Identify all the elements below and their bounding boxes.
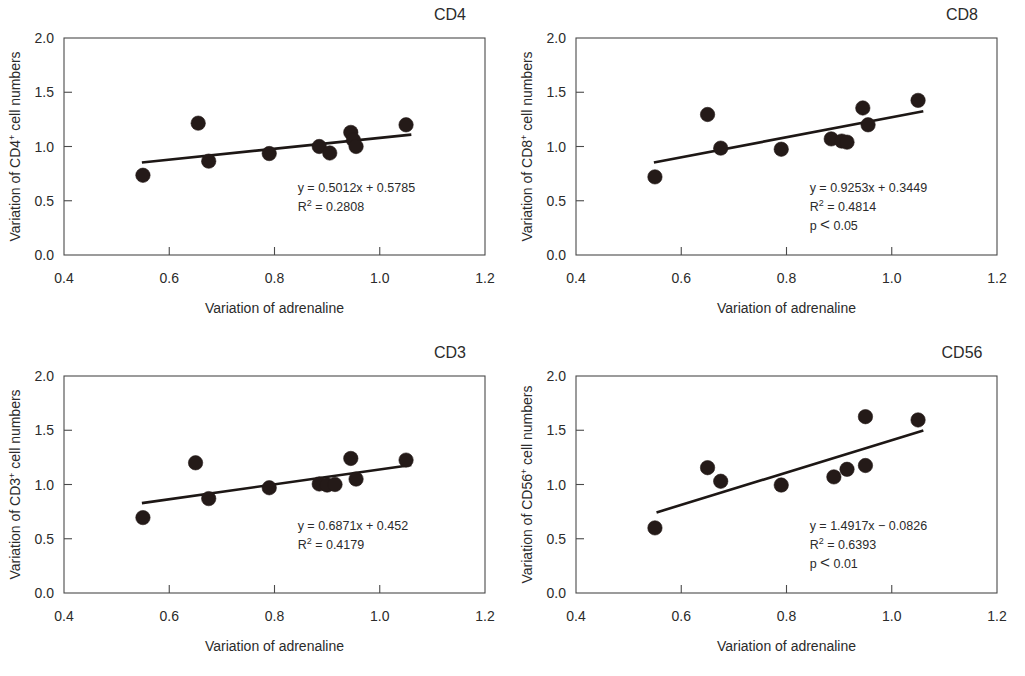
y-tick-label: 1.5 bbox=[547, 422, 567, 438]
y-tick-label: 0.5 bbox=[547, 193, 567, 209]
panel-title: CD8 bbox=[946, 6, 978, 23]
data-point bbox=[399, 118, 413, 132]
x-tick-label: 0.8 bbox=[777, 270, 797, 286]
data-point bbox=[714, 141, 728, 155]
x-tick-label: 0.8 bbox=[265, 270, 285, 286]
x-tick-label: 0.4 bbox=[54, 270, 74, 286]
data-point bbox=[648, 170, 662, 184]
panel-title: CD4 bbox=[434, 6, 466, 23]
panel-cd3: CD30.00.51.01.52.00.40.60.81.01.2Variati… bbox=[0, 338, 512, 676]
r-squared-value: R2 = 0.4179 bbox=[298, 536, 365, 552]
data-point bbox=[323, 146, 337, 160]
y-tick-label: 0.5 bbox=[35, 531, 55, 547]
x-tick-label: 1.2 bbox=[475, 270, 495, 286]
plot-frame bbox=[64, 38, 485, 255]
y-tick-label: 0.0 bbox=[35, 247, 55, 263]
y-tick-label: 2.0 bbox=[35, 30, 55, 46]
data-point bbox=[856, 101, 870, 115]
x-tick-label: 1.2 bbox=[987, 608, 1007, 624]
data-point bbox=[136, 168, 150, 182]
data-point bbox=[349, 472, 363, 486]
regression-equation: y = 0.5012x + 0.5785 bbox=[298, 181, 416, 195]
regression-equation: y = 1.4917x − 0.0826 bbox=[810, 519, 928, 533]
data-point bbox=[191, 116, 205, 130]
x-tick-label: 0.6 bbox=[672, 270, 692, 286]
data-point bbox=[188, 456, 202, 470]
x-tick-label: 0.6 bbox=[672, 608, 692, 624]
panel-title: CD56 bbox=[942, 344, 983, 361]
r-squared-value: R2 = 0.2808 bbox=[298, 198, 365, 214]
x-tick-label: 0.4 bbox=[566, 608, 586, 624]
data-point bbox=[262, 481, 276, 495]
regression-line bbox=[142, 465, 411, 503]
data-point bbox=[858, 409, 872, 423]
data-point bbox=[840, 135, 854, 149]
data-point bbox=[861, 118, 875, 132]
y-axis-title: Variation of CD8+ cell numbers bbox=[519, 51, 535, 241]
y-tick-label: 0.0 bbox=[35, 585, 55, 601]
y-tick-label: 2.0 bbox=[547, 30, 567, 46]
panel-title: CD3 bbox=[434, 344, 466, 361]
x-tick-label: 1.0 bbox=[882, 270, 902, 286]
p-value: p < 0.01 bbox=[810, 553, 858, 572]
y-axis-title: Variation of CD56+ cell numbers bbox=[519, 386, 535, 584]
y-tick-label: 1.5 bbox=[35, 422, 55, 438]
data-point bbox=[714, 474, 728, 488]
data-point bbox=[700, 460, 714, 474]
data-point bbox=[202, 154, 216, 168]
x-tick-label: 0.6 bbox=[160, 608, 180, 624]
x-axis-title: Variation of adrenaline bbox=[205, 300, 344, 316]
regression-line bbox=[654, 111, 923, 162]
data-point bbox=[911, 93, 925, 107]
x-tick-label: 0.8 bbox=[265, 608, 285, 624]
data-point bbox=[344, 451, 358, 465]
data-point bbox=[136, 510, 150, 524]
y-tick-label: 0.5 bbox=[35, 193, 55, 209]
y-tick-label: 0.0 bbox=[547, 585, 567, 601]
x-tick-label: 1.2 bbox=[475, 608, 495, 624]
r-squared-value: R2 = 0.4814 bbox=[810, 198, 877, 214]
y-tick-label: 2.0 bbox=[547, 368, 567, 384]
regression-equation: y = 0.9253x + 0.3449 bbox=[810, 181, 928, 195]
y-tick-label: 1.0 bbox=[35, 139, 55, 155]
y-tick-label: 1.5 bbox=[547, 84, 567, 100]
y-tick-label: 0.0 bbox=[547, 247, 567, 263]
x-tick-label: 0.4 bbox=[566, 270, 586, 286]
data-point bbox=[648, 521, 662, 535]
p-value: p < 0.05 bbox=[810, 215, 858, 234]
data-point bbox=[700, 107, 714, 121]
panel-cd4: CD40.00.51.01.52.00.40.60.81.01.2Variati… bbox=[0, 0, 512, 338]
data-point bbox=[840, 462, 854, 476]
y-tick-label: 2.0 bbox=[35, 368, 55, 384]
y-tick-label: 1.0 bbox=[35, 477, 55, 493]
y-axis-title: Variation of CD3+ cell numbers bbox=[7, 389, 23, 579]
y-tick-label: 1.0 bbox=[547, 477, 567, 493]
data-point bbox=[858, 458, 872, 472]
data-point bbox=[774, 142, 788, 156]
x-tick-label: 1.2 bbox=[987, 270, 1007, 286]
regression-equation: y = 0.6871x + 0.452 bbox=[298, 519, 409, 533]
data-point bbox=[262, 146, 276, 160]
data-point bbox=[911, 413, 925, 427]
x-axis-title: Variation of adrenaline bbox=[717, 638, 856, 654]
x-tick-label: 0.6 bbox=[160, 270, 180, 286]
x-tick-label: 1.0 bbox=[370, 270, 390, 286]
data-point bbox=[328, 477, 342, 491]
panel-cd56: CD560.00.51.01.52.00.40.60.81.01.2Variat… bbox=[512, 338, 1025, 676]
regression-line bbox=[142, 135, 411, 163]
regression-line bbox=[657, 430, 924, 512]
x-axis-title: Variation of adrenaline bbox=[205, 638, 344, 654]
data-point bbox=[202, 491, 216, 505]
y-tick-label: 0.5 bbox=[547, 531, 567, 547]
y-tick-label: 1.5 bbox=[35, 84, 55, 100]
x-tick-label: 1.0 bbox=[370, 608, 390, 624]
data-point bbox=[349, 139, 363, 153]
data-point bbox=[827, 470, 841, 484]
r-squared-value: R2 = 0.6393 bbox=[810, 536, 877, 552]
x-axis-title: Variation of adrenaline bbox=[717, 300, 856, 316]
y-axis-title: Variation of CD4+ cell numbers bbox=[7, 51, 23, 241]
y-tick-label: 1.0 bbox=[547, 139, 567, 155]
data-point bbox=[399, 453, 413, 467]
data-point bbox=[774, 478, 788, 492]
x-tick-label: 0.4 bbox=[54, 608, 74, 624]
